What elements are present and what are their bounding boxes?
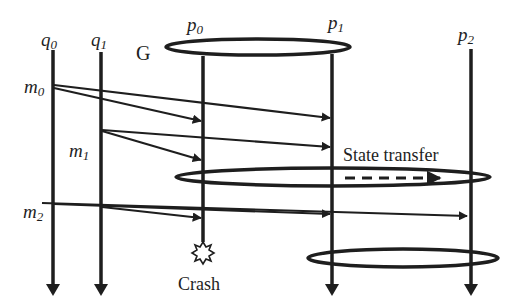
label-q1: q1 [91, 29, 107, 52]
label-p1: p1 [326, 12, 344, 35]
label-p0: p0 [185, 14, 204, 37]
timeline-q1 [94, 52, 108, 296]
arrow-down-icon [46, 284, 60, 296]
message-m2 [42, 203, 467, 218]
timeline-p1 [325, 54, 339, 296]
message-m0 [54, 85, 330, 121]
diagram-canvas: q0 q1 p0 p1 p2 G m0 m1 m2 State transfer… [0, 0, 523, 307]
arrow-down-icon [94, 284, 108, 296]
timeline-q0 [46, 50, 60, 296]
label-m1: m1 [69, 140, 89, 163]
arrow-down-icon [464, 284, 478, 296]
crash-icon [192, 242, 214, 264]
arrow-down-icon [325, 284, 339, 296]
group-label: G [136, 42, 150, 64]
crash-label: Crash [178, 274, 220, 294]
view-ellipse-0 [166, 39, 350, 55]
label-p2: p2 [456, 24, 475, 47]
label-q0: q0 [41, 29, 58, 52]
label-m0: m0 [24, 76, 45, 99]
state-transfer-label: State transfer [343, 145, 438, 165]
label-m2: m2 [23, 201, 44, 224]
message-m1 [102, 130, 330, 160]
